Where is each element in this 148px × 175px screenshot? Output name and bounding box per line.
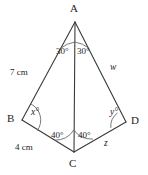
angle-label-CAD: 30°: [77, 47, 90, 56]
side-label-AB: 7 cm: [10, 68, 28, 77]
side-label-BC: 4 cm: [15, 143, 33, 152]
angle-label-BCA: 40°: [51, 131, 64, 140]
vertex-label-D: D: [131, 115, 139, 126]
vertex-label-B: B: [7, 113, 14, 124]
geometry-figure: A B C D 30° 30° x° 40° 40° y° 7 cm w 4 c…: [0, 0, 148, 175]
side-label-CD: z: [104, 139, 108, 149]
vertex-label-A: A: [70, 3, 78, 14]
segment-AB: [22, 22, 75, 120]
segment-AD: [75, 22, 126, 122]
side-label-AD: w: [110, 63, 116, 73]
angle-label-BAC: 30°: [56, 47, 69, 56]
segment-AC: [74, 22, 75, 152]
angle-label-ACD: 40°: [78, 131, 91, 140]
angle-label-ABC: x°: [31, 108, 39, 118]
vertex-label-C: C: [69, 158, 76, 169]
angle-label-ADC: y°: [110, 108, 118, 118]
